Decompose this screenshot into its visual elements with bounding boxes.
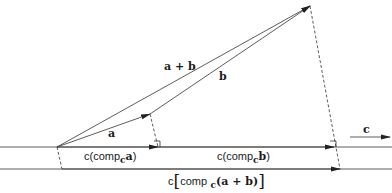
drop-line-origin (57, 147, 62, 169)
vector-a (57, 114, 150, 147)
label-b: b (219, 71, 227, 82)
label-a: a (108, 128, 115, 139)
drop-line-a (150, 114, 158, 147)
vector-a-plus-b (57, 6, 310, 147)
label-proj-a: c(compca) (84, 151, 136, 162)
label-c: c (363, 124, 370, 135)
label-a-plus-b: a + b (164, 61, 196, 72)
drop-line-ab (310, 6, 340, 169)
label-proj-ab: c[comp c(a + b)] (168, 171, 265, 188)
label-proj-b: c(compcb) (217, 151, 270, 162)
diagram-canvas (0, 0, 392, 193)
